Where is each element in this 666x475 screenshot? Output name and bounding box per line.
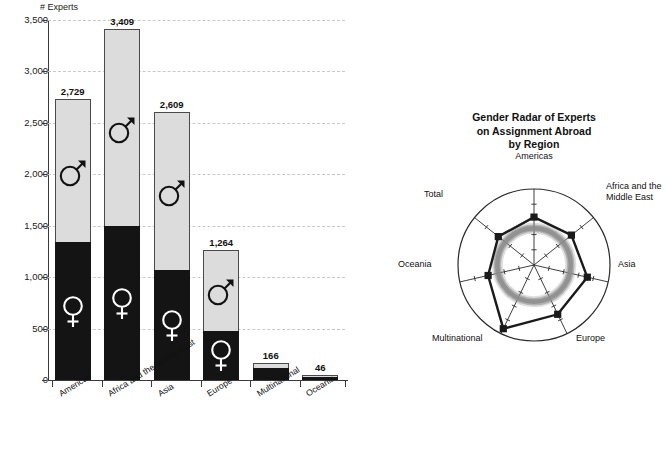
x-axis-tick-mark bbox=[300, 380, 301, 387]
mars-symbol-icon bbox=[107, 113, 137, 149]
mars-symbol-icon bbox=[157, 176, 187, 212]
bar-segment-male bbox=[104, 29, 140, 225]
y-axis-tick-mark bbox=[42, 174, 47, 175]
radar-tick-mark bbox=[474, 276, 475, 281]
radar-tick-mark bbox=[504, 269, 505, 274]
x-axis-tick-mark bbox=[201, 380, 202, 387]
venus-symbol-icon bbox=[208, 339, 234, 377]
y-axis-tick-mark bbox=[42, 123, 47, 124]
bar-americas: 2,729 bbox=[55, 99, 91, 380]
stacked-bar-chart: # Experts 3,5003,0002,5002,0001,5001,000… bbox=[0, 0, 400, 475]
x-axis-tick-mark bbox=[250, 380, 251, 387]
bar-total-label: 2,609 bbox=[160, 99, 184, 112]
x-axis-tick-mark bbox=[345, 380, 346, 387]
venus-symbol-icon bbox=[60, 295, 86, 333]
x-axis-tick-mark bbox=[102, 380, 103, 387]
bar-total-label: 3,409 bbox=[110, 16, 134, 29]
bar-total-label: 2,729 bbox=[61, 86, 85, 99]
radar-tick-mark bbox=[548, 266, 549, 271]
bar-segment-male bbox=[154, 112, 190, 270]
mars-symbol-icon bbox=[206, 275, 236, 311]
x-axis-line bbox=[48, 380, 348, 381]
x-axis-tick-mark bbox=[151, 380, 152, 387]
bar-segment-male bbox=[203, 250, 239, 331]
y-axis-tick-mark bbox=[42, 380, 47, 381]
bar-africa-and-the-middle-east: 3,409 bbox=[104, 29, 140, 380]
bar-total-label: 1,264 bbox=[209, 237, 233, 250]
radar-label-line-1: Africa and the bbox=[606, 181, 666, 192]
radar-data-point bbox=[584, 274, 591, 281]
y-axis-title: # Experts bbox=[40, 2, 78, 12]
radar-tick-mark bbox=[578, 273, 579, 278]
radar-plot-area: AmericasAfrica and theMiddle EastAsiaEur… bbox=[410, 167, 658, 382]
bar-segment-male bbox=[55, 99, 91, 242]
bars-container: 2,729 3,409 2,609 1,26416646 bbox=[48, 20, 345, 380]
radar-data-point bbox=[530, 214, 537, 221]
radar-axis-label-americas: Americas bbox=[506, 151, 562, 162]
radar-chart-title: Gender Radar of Experts on Assignment Ab… bbox=[410, 111, 658, 152]
radar-axis-label-europe: Europe bbox=[576, 333, 605, 344]
bar-segment-female bbox=[104, 226, 140, 380]
radar-title-line-2: on Assignment Abroad bbox=[410, 125, 658, 139]
radar-data-point bbox=[485, 272, 492, 279]
x-axis-tick-mark bbox=[52, 380, 53, 387]
y-axis-tick-mark bbox=[42, 20, 47, 21]
radar-data-point bbox=[500, 325, 507, 332]
y-axis-tick-mark bbox=[42, 329, 47, 330]
radar-tick-mark bbox=[563, 269, 564, 274]
radar-axis-label-multinational: Multinational bbox=[432, 333, 483, 344]
radar-axis-label-asia: Asia bbox=[618, 259, 636, 270]
radar-label-line-2: Middle East bbox=[606, 192, 666, 203]
venus-symbol-icon bbox=[159, 309, 185, 347]
radar-tick-mark bbox=[593, 276, 594, 281]
bar-total-label: 46 bbox=[315, 362, 326, 375]
y-axis-tick-mark bbox=[42, 226, 47, 227]
radar-data-point bbox=[554, 311, 561, 318]
venus-symbol-icon bbox=[109, 287, 135, 325]
bar-segment-female bbox=[203, 331, 239, 380]
bar-segment-female bbox=[55, 242, 91, 380]
radar-data-point bbox=[495, 233, 502, 240]
radar-axis-label-oceania: Oceania bbox=[398, 259, 432, 270]
radar-axis-label-africa-and-the-middle-east: Africa and theMiddle East bbox=[606, 181, 666, 202]
radar-chart: Gender Radar of Experts on Assignment Ab… bbox=[410, 105, 658, 395]
x-axis-label: Asia bbox=[156, 381, 175, 398]
bar-europe: 1,264 bbox=[203, 250, 239, 380]
radar-title-line-1: Gender Radar of Experts bbox=[410, 111, 658, 125]
mars-symbol-icon bbox=[58, 156, 88, 192]
y-axis-tick-mark bbox=[42, 277, 47, 278]
bar-total-label: 166 bbox=[263, 350, 279, 363]
y-axis-tick-mark bbox=[42, 71, 47, 72]
radar-axis-label-total: Total bbox=[424, 189, 443, 200]
radar-title-line-3: by Region bbox=[410, 138, 658, 152]
radar-data-point bbox=[568, 232, 575, 239]
radar-tick-mark bbox=[519, 266, 520, 271]
